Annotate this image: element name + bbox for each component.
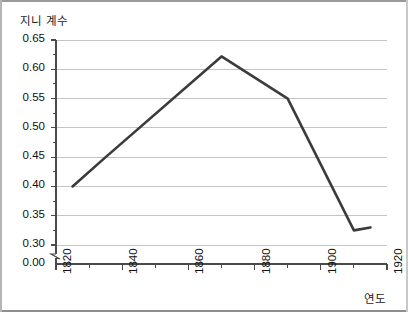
y-tick-label-baseline: 0.00 <box>11 256 45 268</box>
x-tick-label: 1880 <box>260 248 272 274</box>
y-tick-label: 0.60 <box>11 61 45 73</box>
x-tick-label: 1840 <box>127 248 139 274</box>
series-line-0 <box>73 56 371 230</box>
y-tick-label: 0.40 <box>11 178 45 190</box>
y-tick-label: 0.50 <box>11 120 45 132</box>
chart-screenshot: 지니 계수 연도 0.300.350.400.450.500.550.600.6… <box>0 0 408 327</box>
y-tick-label: 0.45 <box>11 149 45 161</box>
y-tick-label: 0.65 <box>11 32 45 44</box>
y-axis <box>51 40 60 264</box>
y-tick-label: 0.35 <box>11 208 45 220</box>
x-tick-label: 1900 <box>326 248 338 274</box>
x-tick-label: 1920 <box>392 248 404 274</box>
frame-border-bottom <box>0 310 408 312</box>
y-tick-label: 0.55 <box>11 91 45 103</box>
chart-plot-area: 지니 계수 연도 0.300.350.400.450.500.550.600.6… <box>0 2 408 310</box>
y-tick-label: 0.30 <box>11 237 45 249</box>
data-series <box>73 56 371 230</box>
x-tick-label: 1820 <box>61 248 73 274</box>
gridlines <box>56 40 387 264</box>
x-tick-label: 1860 <box>193 248 205 274</box>
